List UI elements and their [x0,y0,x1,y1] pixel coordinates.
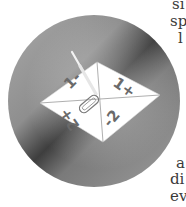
side-text-line-4: a [176,156,185,171]
side-text-line-1: si [172,0,185,12]
illustration: 1- 1+ 2+ -2 [0,0,186,207]
side-text-line-2: sp [170,14,186,29]
side-text-line-6: ev [170,189,186,204]
side-text-line-3: l [178,31,183,46]
side-text-line-5: di [170,172,184,187]
